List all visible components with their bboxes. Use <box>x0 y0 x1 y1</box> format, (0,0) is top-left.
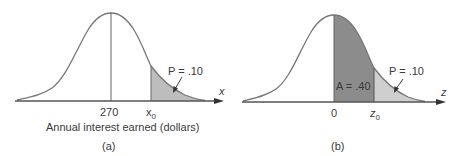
caption-a: (a) <box>102 140 115 152</box>
panel-b: z 0 z0 A = .40 P = .10 (b) <box>242 15 447 152</box>
x-axis-title: Annual interest earned (dollars) <box>46 121 199 133</box>
panel-a: x 270 x0 Annual interest earned (dollars… <box>15 13 225 152</box>
zero-tick-label: 0 <box>331 107 337 119</box>
mean-tick-label: 270 <box>100 106 118 118</box>
x0-tick-label: x0 <box>146 106 157 121</box>
p-label-b: P = .10 <box>389 65 424 77</box>
caption-b: (b) <box>331 140 344 152</box>
figure: x 270 x0 Annual interest earned (dollars… <box>0 0 464 156</box>
z0-tick-label: z0 <box>369 107 381 122</box>
p-label-a: P = .10 <box>168 65 203 77</box>
axis-label-x: x <box>218 85 225 97</box>
axis-arrow-b <box>436 99 446 105</box>
axis-arrow-a <box>214 98 224 104</box>
pointer-line-a <box>175 77 182 89</box>
axis-label-z: z <box>440 86 447 98</box>
a-label: A = .40 <box>336 80 371 92</box>
